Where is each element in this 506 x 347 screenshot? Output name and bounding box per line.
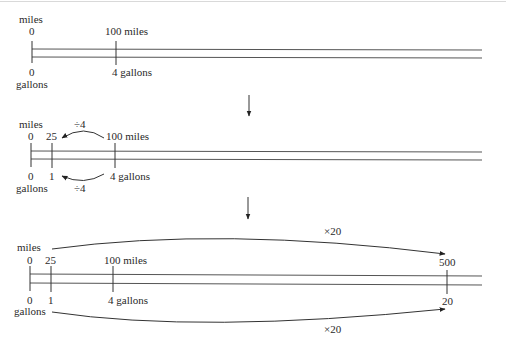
top-tick-label-25: 25 — [46, 130, 58, 142]
bottom-tick-label-4: 4 gallons — [110, 170, 150, 182]
bottom-unit-label: gallons — [16, 182, 48, 194]
bottom-tick-label-1: 1 — [49, 170, 55, 182]
bottom-tick-label-0: 0 — [29, 66, 35, 78]
top-tick-label-0: 0 — [29, 25, 35, 37]
number-line-step-3: ×20 miles 0 25 100 miles 500 0 1 4 gallo… — [14, 225, 482, 335]
top-tick-label-100: 100 miles — [104, 254, 147, 266]
curved-arrow-icon — [62, 131, 104, 138]
bottom-tick-label-0: 0 — [28, 170, 34, 182]
top-tick-label-100: 100 miles — [105, 25, 148, 37]
number-line-step-2: miles 0 25 100 miles ÷4 0 1 4 gallons ga… — [16, 118, 482, 194]
top-tick-label-500: 500 — [439, 256, 456, 268]
curved-arrow-icon — [62, 174, 104, 181]
number-line-step-1: miles 0 100 miles 0 4 gallons gallons — [16, 13, 482, 90]
top-unit-label: miles — [19, 118, 43, 130]
bottom-tick-label-4: 4 gallons — [112, 66, 152, 78]
top-tick-label-25: 25 — [45, 254, 57, 266]
gallons-line — [30, 283, 482, 285]
gallons-line — [32, 57, 482, 58]
multiply-label-bottom: ×20 — [324, 323, 342, 335]
top-tick-label-0: 0 — [28, 130, 34, 142]
miles-line — [30, 274, 482, 276]
curved-arrow-icon — [52, 239, 445, 254]
top-unit-label: miles — [17, 241, 41, 253]
multiply-label-top: ×20 — [324, 225, 342, 237]
curved-arrow-icon — [52, 309, 445, 322]
gallons-line — [31, 159, 482, 160]
miles-line — [32, 49, 482, 50]
divide-label-top: ÷4 — [74, 118, 86, 130]
bottom-tick-label-4: 4 gallons — [108, 294, 148, 306]
bottom-unit-label: gallons — [16, 78, 48, 90]
bottom-tick-label-20: 20 — [442, 295, 454, 307]
bottom-tick-label-1: 1 — [48, 294, 54, 306]
top-unit-label: miles — [19, 13, 43, 25]
double-number-line-diagram: miles 0 100 miles 0 4 gallons gallons mi… — [0, 0, 506, 347]
divide-label-bottom: ÷4 — [74, 182, 86, 194]
miles-line — [31, 151, 482, 152]
top-tick-label-100: 100 miles — [106, 130, 149, 142]
bottom-unit-label: gallons — [14, 305, 46, 317]
top-tick-label-0: 0 — [27, 254, 33, 266]
